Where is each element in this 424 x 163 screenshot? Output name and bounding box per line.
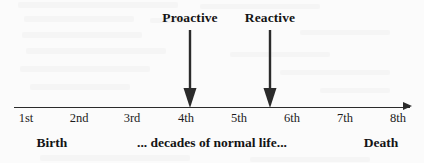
page-bleed-smudge bbox=[24, 16, 134, 22]
tick-label-7th: 7th bbox=[337, 111, 353, 126]
down-arrow-icon-proactive bbox=[182, 30, 198, 112]
arrow-right-icon-axis-end bbox=[403, 102, 412, 110]
tick-label-1st: 1st bbox=[19, 111, 34, 126]
page-bleed-smudge bbox=[20, 66, 150, 72]
page-bleed-smudge bbox=[320, 88, 390, 93]
tick-label-8th: 8th bbox=[390, 111, 406, 126]
page-bleed-smudge bbox=[30, 84, 130, 90]
page-bleed-smudge bbox=[22, 32, 142, 38]
tick-label-2nd: 2nd bbox=[70, 111, 89, 126]
timeline-figure: Proactive Reactive 1st 2nd 3rd 4th 5th 6… bbox=[0, 0, 424, 163]
page-bleed-smudge bbox=[300, 30, 390, 35]
tick-label-4th: 4th bbox=[178, 111, 194, 126]
callout-label-proactive: Proactive bbox=[162, 10, 217, 26]
page-bleed-smudge bbox=[280, 70, 390, 75]
note-birth: Birth bbox=[37, 135, 68, 151]
down-arrow-icon-reactive bbox=[262, 30, 278, 112]
note-decades-of-normal-life: ... decades of normal life... bbox=[137, 135, 287, 151]
timeline-axis-line bbox=[14, 107, 410, 108]
page-bleed-smudge bbox=[230, 52, 330, 57]
tick-label-6th: 6th bbox=[284, 111, 300, 126]
page-bleed-smudge bbox=[26, 48, 166, 54]
note-death: Death bbox=[364, 135, 399, 151]
page-bleed-smudge bbox=[40, 155, 190, 161]
tick-label-3rd: 3rd bbox=[124, 111, 141, 126]
tick-label-5th: 5th bbox=[231, 111, 247, 126]
page-bleed-smudge bbox=[200, 4, 320, 9]
page-bleed-smudge bbox=[250, 157, 370, 162]
callout-label-reactive: Reactive bbox=[245, 10, 295, 26]
page-bleed-smudge bbox=[18, 2, 178, 8]
